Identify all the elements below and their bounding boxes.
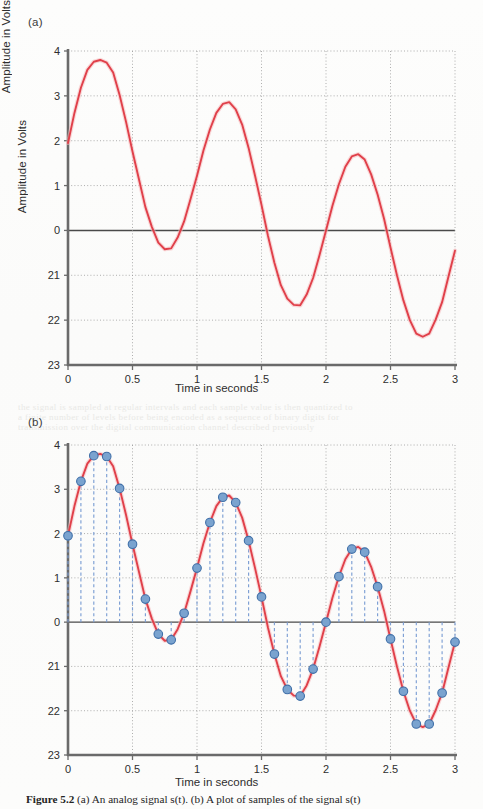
sample-point xyxy=(141,595,150,604)
figure-caption-label: Figure 5.2 xyxy=(26,793,74,805)
sample-point xyxy=(206,518,215,527)
sample-point xyxy=(244,536,253,545)
y-tick-label: 4 xyxy=(54,45,60,57)
x-tick-label: 1.5 xyxy=(254,763,269,775)
sample-point xyxy=(335,572,344,581)
y-tick-label: 21 xyxy=(48,660,60,672)
sample-point xyxy=(451,638,460,647)
sample-point xyxy=(90,451,99,460)
sample-point xyxy=(438,689,447,698)
sample-point xyxy=(77,477,86,486)
x-tick-label: 0 xyxy=(65,763,71,775)
sample-point xyxy=(309,665,318,674)
y-tick-label: 22 xyxy=(48,314,60,326)
sample-point xyxy=(322,618,331,627)
sample-point xyxy=(296,692,305,701)
sample-point xyxy=(270,650,279,659)
y-tick-label: 23 xyxy=(48,749,60,761)
figure-caption-text: (a) An analog signal s(t). (b) A plot of… xyxy=(77,793,360,805)
sample-point xyxy=(348,545,357,554)
sample-point xyxy=(257,593,266,602)
y-tick-label: 1 xyxy=(54,572,60,584)
x-tick-label: 2 xyxy=(323,373,329,385)
x-tick-label: 1 xyxy=(194,763,200,775)
sample-point xyxy=(102,452,111,461)
y-tick-label: 1 xyxy=(54,180,60,192)
signal-curve-halo xyxy=(68,454,455,727)
panel-b-y-axis-label: Amplitude in Volts xyxy=(0,0,12,93)
sample-point xyxy=(283,685,292,694)
sample-point xyxy=(412,720,421,729)
x-tick-label: 0.5 xyxy=(125,373,140,385)
x-tick-label: 3 xyxy=(452,373,458,385)
sample-point xyxy=(219,493,228,502)
panel-a-x-axis-label: Time in seconds xyxy=(175,382,258,394)
sample-point xyxy=(360,548,369,557)
sample-point xyxy=(373,582,382,591)
y-tick-label: 2 xyxy=(54,135,60,147)
y-tick-label: 23 xyxy=(48,359,60,371)
y-tick-label: 22 xyxy=(48,705,60,717)
panel-b-plot-area: 4321021222300.511.522.53 xyxy=(0,400,483,788)
x-tick-label: 2.5 xyxy=(383,763,398,775)
figure-panel-b: (b) 4321021222300.511.522.53 xyxy=(0,400,483,788)
panel-b-x-axis-label: Time in seconds xyxy=(175,776,258,788)
sample-point xyxy=(167,636,176,645)
y-tick-label: 2 xyxy=(54,528,60,540)
y-tick-label: 4 xyxy=(54,439,60,451)
sample-point xyxy=(425,720,434,729)
x-tick-label: 2.5 xyxy=(383,373,398,385)
panel-a-plot-area: 4321021222300.511.522.53 xyxy=(0,0,483,400)
panel-b-chart-svg: 4321021222300.511.522.53 xyxy=(0,400,483,788)
sample-point xyxy=(115,484,124,493)
sample-point xyxy=(154,630,163,639)
y-tick-label: 3 xyxy=(54,483,60,495)
panel-a-chart-svg: 4321021222300.511.522.53 xyxy=(0,0,483,400)
y-tick-label: 0 xyxy=(54,616,60,628)
sample-point xyxy=(64,531,73,540)
sample-point xyxy=(193,564,202,573)
x-tick-label: 2 xyxy=(323,763,329,775)
sample-point xyxy=(399,687,408,696)
figure-panel-a: (a) Amplitude in Volts 4321021222300.511… xyxy=(0,0,483,400)
x-tick-label: 0 xyxy=(65,373,71,385)
sample-point xyxy=(180,609,189,618)
sample-point xyxy=(128,540,137,549)
x-tick-label: 0.5 xyxy=(125,763,140,775)
sample-point xyxy=(231,498,240,507)
sample-point xyxy=(386,635,395,644)
signal-curve-halo xyxy=(68,60,455,337)
figure-caption: Figure 5.2 (a) An analog signal s(t). (b… xyxy=(26,792,466,809)
y-tick-label: 3 xyxy=(54,90,60,102)
y-tick-label: 0 xyxy=(54,224,60,236)
y-tick-label: 21 xyxy=(48,269,60,281)
x-tick-label: 3 xyxy=(452,763,458,775)
